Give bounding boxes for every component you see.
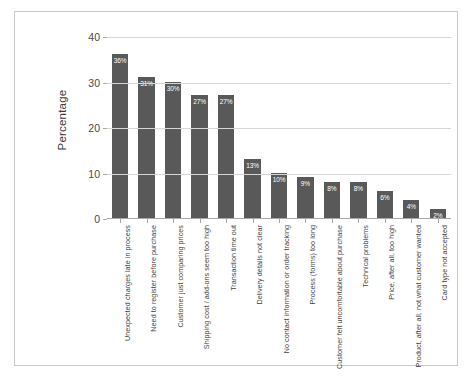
plot-area: 36%31%30%27%27%13%10%9%8%8%6%4%2% 010203…: [107, 37, 451, 219]
x-axis-tick-mark: [200, 219, 201, 223]
bar[interactable]: 13%: [244, 159, 260, 218]
x-axis-category-label: Product, after all, not what customer wa…: [414, 225, 423, 367]
bar[interactable]: 30%: [165, 82, 181, 219]
x-axis-category-label: Price, after all, too high: [387, 225, 396, 300]
bar[interactable]: 9%: [297, 177, 313, 218]
bar[interactable]: 8%: [324, 182, 340, 218]
bar[interactable]: 4%: [403, 200, 419, 218]
bar[interactable]: 10%: [271, 173, 287, 219]
y-axis-tick-mark: [103, 219, 107, 220]
bar-value-label: 8%: [324, 185, 340, 192]
bar[interactable]: 27%: [191, 95, 207, 218]
bar[interactable]: 31%: [138, 77, 154, 218]
y-axis-title: Percentage: [56, 60, 72, 180]
x-axis-tick-mark: [147, 219, 148, 223]
x-axis-category-label: Need to register before purchase: [149, 225, 158, 332]
y-axis-tick-label: 10: [88, 168, 100, 180]
x-axis-tick-mark: [279, 219, 280, 223]
x-axis-tick-mark: [332, 219, 333, 223]
x-axis-tick-mark: [173, 219, 174, 223]
x-axis-category-label: Customer felt uncomfortable about purcha…: [335, 225, 344, 369]
bar-value-label: 27%: [218, 98, 234, 105]
chart-canvas: Percentage 36%31%30%27%27%13%10%9%8%8%6%…: [15, 12, 457, 365]
y-axis-tick-label: 40: [88, 31, 100, 43]
bar[interactable]: 6%: [377, 191, 393, 218]
y-axis-tick-mark: [103, 83, 107, 84]
x-axis-category-label: Card type not accepted: [440, 225, 449, 300]
y-axis-tick-label: 0: [94, 213, 100, 225]
x-axis-category-label: Transaction time out: [229, 225, 238, 291]
x-axis-tick-mark: [438, 219, 439, 223]
x-axis-tick-mark: [385, 219, 386, 223]
x-axis-category-label: Shipping cost / add-ons seem too high: [202, 225, 211, 349]
x-axis-tick-mark: [358, 219, 359, 223]
chart-figure-card: Percentage 36%31%30%27%27%13%10%9%8%8%6%…: [14, 11, 458, 366]
bar-value-label: 30%: [165, 85, 181, 92]
bar-value-label: 8%: [350, 185, 366, 192]
bar-value-label: 4%: [403, 203, 419, 210]
bar-value-label: 2%: [430, 212, 446, 219]
gridline: [107, 83, 451, 84]
x-axis-category-label: Delivery details not clear: [255, 225, 264, 305]
bar-value-label: 13%: [244, 162, 260, 169]
x-axis-tick-mark: [305, 219, 306, 223]
screenshot-root: Percentage 36%31%30%27%27%13%10%9%8%8%6%…: [0, 0, 476, 383]
x-axis-tick-mark: [411, 219, 412, 223]
bar[interactable]: 27%: [218, 95, 234, 218]
x-axis-category-label: Customer just comparing prices: [176, 225, 185, 328]
bar[interactable]: 36%: [112, 54, 128, 218]
gridline: [107, 174, 451, 175]
x-axis-tick-mark: [226, 219, 227, 223]
bar[interactable]: 8%: [350, 182, 366, 218]
x-axis-category-label: Unexpected charges late in process: [123, 225, 132, 341]
x-axis-tick-mark: [253, 219, 254, 223]
bar-value-label: 36%: [112, 57, 128, 64]
y-axis-tick-label: 20: [88, 122, 100, 134]
x-axis-category-label: No contact information or order tracking: [282, 225, 291, 353]
y-axis-tick-mark: [103, 37, 107, 38]
y-axis-tick-mark: [103, 174, 107, 175]
x-axis-category-label: Process (forms) too long: [308, 225, 317, 305]
x-axis-category-label: Technical problems: [361, 225, 370, 287]
bar-value-label: 10%: [271, 176, 287, 183]
y-axis-tick-label: 30: [88, 77, 100, 89]
bar-value-label: 9%: [297, 180, 313, 187]
y-axis-tick-mark: [103, 128, 107, 129]
bar-value-label: 27%: [191, 98, 207, 105]
gridline: [107, 37, 451, 38]
x-axis-labels: Unexpected charges late in processNeed t…: [107, 225, 451, 365]
x-axis-tick-mark: [120, 219, 121, 223]
gridline: [107, 128, 451, 129]
bar[interactable]: 2%: [430, 209, 446, 218]
bar-value-label: 6%: [377, 194, 393, 201]
